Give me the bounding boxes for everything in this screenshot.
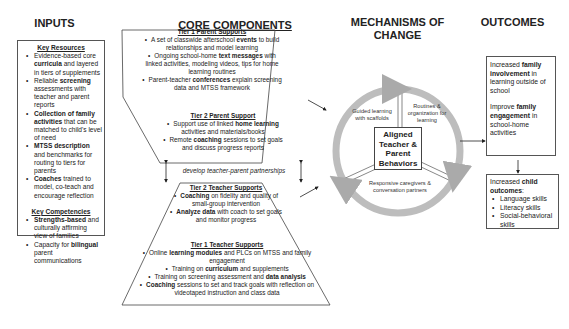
mechanism-routines: Routines & organization for learning	[403, 103, 451, 124]
tier2-teacher-supports: Tier 2 Teacher Supports Coaching on fide…	[166, 184, 286, 224]
outcome-family-engagement: Improve family engagement in school-home…	[490, 103, 552, 137]
list-item: Support use of linked home learning acti…	[163, 120, 283, 136]
tier1-teacher-supports: Tier 1 Teacher Supports Online learning …	[132, 241, 322, 297]
list-item: Literacy skills	[494, 204, 555, 213]
list-item: Remote coaching sessions to set goals an…	[163, 136, 283, 152]
tier2-parent-title: Tier 2 Parent Support	[163, 112, 283, 120]
tier2-teacher-title: Tier 2 Teacher Supports	[166, 184, 286, 192]
tier2-parent-support: Tier 2 Parent Support Support use of lin…	[163, 112, 283, 152]
list-item: Analyze data with coach to set goals and…	[166, 208, 286, 224]
list-item: Training on screening assessment and dat…	[132, 273, 322, 281]
list-item: Parent-teacher conferences explain scree…	[132, 76, 292, 92]
tier1-parent-supports: Tier 1 Parent Supports A set of classwid…	[132, 28, 292, 92]
tier1-teacher-title: Tier 1 Teacher Supports	[132, 241, 322, 249]
list-item: Coaching on fidelity and quality of smal…	[166, 192, 286, 208]
aligned-behaviors-box: Aligned Teacher & Parent Behaviors	[374, 127, 422, 170]
list-item: A set of classwide afterschool events to…	[132, 36, 292, 52]
partnership-label: develop teacher-parent partnerships	[172, 167, 296, 174]
list-item: Ongoing school-home text messages with l…	[132, 52, 292, 76]
outcomes-family-box: Increased family involvement in learning…	[486, 56, 556, 156]
list-item: Language skills	[494, 195, 555, 204]
outcome-child-title: Increased child outcomes:	[490, 178, 555, 195]
mechanism-guided-learning: Guided learning with scaffolds	[352, 108, 392, 122]
list-item: Social-behavioral skills	[494, 212, 555, 229]
mechanism-responsive-caregivers: Responsive caregivers & conversation par…	[360, 180, 440, 194]
tier1-parent-title: Tier 1 Parent Supports	[132, 28, 292, 36]
outcomes-child-box: Increased child outcomes: Language skill…	[486, 174, 559, 229]
list-item: Online learning modules and PLCs on MTSS…	[132, 249, 322, 265]
outcome-family-involvement: Increased family involvement in learning…	[490, 61, 552, 95]
list-item: Coaching sessions to set and track goals…	[132, 281, 322, 297]
list-item: Training on curriculum and supplements	[132, 265, 322, 273]
